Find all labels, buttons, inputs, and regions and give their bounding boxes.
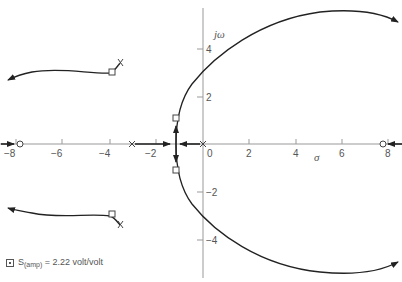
x-tick-labels: −8 −6 −4 −2 0 2 4 6 8: [4, 148, 391, 159]
root-locus-plot: −8 −6 −4 −2 0 2 4 6 8 4 2 −2 −4 jω σ: [0, 0, 402, 282]
svg-text:2: 2: [246, 148, 252, 159]
svg-text:2: 2: [206, 92, 212, 103]
locus-branch-lower: [176, 144, 398, 273]
svg-text:−2: −2: [145, 148, 157, 159]
locus-branch-complex-lower: [8, 208, 120, 225]
svg-text:6: 6: [339, 148, 345, 159]
svg-text:4: 4: [206, 44, 212, 55]
svg-text:−6: −6: [51, 148, 63, 159]
operating-point-markers: [109, 69, 179, 217]
x-axis-label: σ: [314, 151, 320, 163]
svg-text:0: 0: [207, 148, 213, 159]
svg-text:−2: −2: [206, 187, 218, 198]
legend-text: S(amp) = 2.22 volt/volt: [18, 257, 103, 268]
locus-branch-upper: [176, 11, 398, 144]
y-tick-labels: 4 2 −2 −4: [206, 44, 218, 246]
svg-text:−8: −8: [4, 148, 16, 159]
y-axis-label: jω: [212, 28, 225, 40]
svg-text:−4: −4: [206, 235, 218, 246]
svg-text:4: 4: [293, 148, 299, 159]
svg-text:8: 8: [385, 148, 391, 159]
svg-text:−4: −4: [99, 148, 111, 159]
legend: S(amp) = 2.22 volt/volt: [6, 257, 103, 268]
locus-branch-complex-upper: [8, 63, 120, 80]
operating-point-symbol: [6, 259, 14, 267]
